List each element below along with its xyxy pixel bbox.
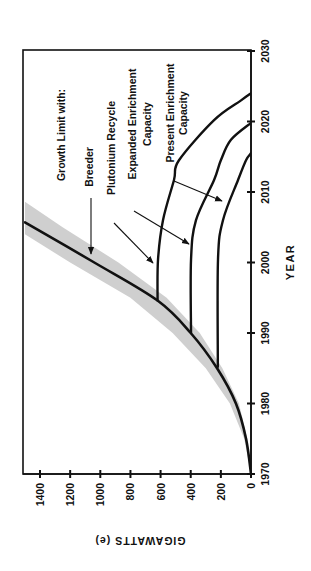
arrow-present-enrichment	[174, 181, 222, 201]
year-tick-label: 2010	[259, 180, 271, 204]
gigawatts-axis: 0200400600800100012001400	[23, 470, 257, 506]
series-present-enrichment-capacity	[218, 153, 251, 367]
gigawatt-tick-label: 1200	[64, 483, 76, 507]
label-present-capacity: Capacity	[177, 91, 189, 135]
y-axis-label: GIGAWATTS (e)	[95, 535, 186, 547]
year-tick-label: 1990	[259, 321, 271, 345]
gigawatt-tick-label: 200	[215, 483, 227, 501]
gigawatt-tick-label: 1400	[34, 483, 46, 507]
year-tick-label: 1970	[259, 462, 271, 486]
label-plutonium-recycle: Plutonium Recycle	[105, 101, 117, 195]
gigawatt-tick-label: 600	[155, 483, 167, 501]
year-axis: 1970198019902000201020202030	[247, 39, 271, 486]
legend-heading: Growth Limit with:	[55, 89, 67, 181]
year-tick-label: 2020	[259, 110, 271, 134]
gigawatt-tick-label: 1000	[94, 483, 106, 507]
x-axis-label: YEAR	[284, 244, 296, 281]
gigawatt-tick-label: 800	[124, 483, 136, 501]
gigawatt-tick-label: 0	[245, 483, 257, 489]
arrow-expanded-enrichment	[134, 211, 189, 244]
gigawatt-tick-label: 400	[185, 483, 197, 501]
label-expanded-enrichment: Expanded Enrichment	[126, 68, 138, 179]
label-breeder: Breeder	[83, 147, 95, 187]
label-present-enrichment: Present Enrichment	[164, 63, 176, 163]
nuclear-growth-chart: 1970198019902000201020202030 02004006008…	[0, 0, 311, 571]
year-tick-label: 2000	[259, 251, 271, 275]
label-expanded-capacity: Capacity	[141, 102, 153, 146]
arrow-plutonium-recycle	[114, 223, 153, 263]
year-tick-label: 1980	[259, 392, 271, 416]
year-tick-label: 2030	[259, 39, 271, 63]
